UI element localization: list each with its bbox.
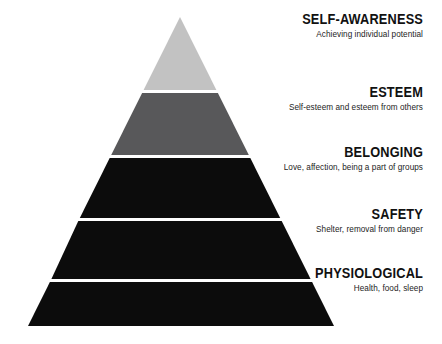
pyramid-tier-3-description: Love, affection, being a part of groups <box>93 164 423 172</box>
pyramid-tier-4-label: SAFETY Shelter, removal from danger <box>93 207 423 234</box>
pyramid-tier-5-label: PHYSIOLOGICAL Health, food, sleep <box>93 266 423 293</box>
pyramid-tier-1-title: SELF-AWARENESS <box>133 12 423 27</box>
pyramid-tier-2-title: ESTEEM <box>133 85 423 100</box>
pyramid-tier-2-label: ESTEEM Self-esteem and esteem from other… <box>93 85 423 112</box>
pyramid-diagram: SELF-AWARENESS Achieving individual pote… <box>0 0 442 344</box>
pyramid-tier-2-description: Self-esteem and esteem from others <box>93 104 423 112</box>
pyramid-tier-4-description: Shelter, removal from danger <box>93 226 423 234</box>
pyramid-tier-5-title: PHYSIOLOGICAL <box>133 266 423 281</box>
pyramid-tier-4-title: SAFETY <box>133 207 423 222</box>
pyramid-tier-5-description: Health, food, sleep <box>93 285 423 293</box>
pyramid-tier-3-label: BELONGING Love, affection, being a part … <box>93 145 423 172</box>
pyramid-tier-3-title: BELONGING <box>133 145 423 160</box>
pyramid-labels: SELF-AWARENESS Achieving individual pote… <box>0 0 442 344</box>
pyramid-tier-1-label: SELF-AWARENESS Achieving individual pote… <box>93 12 423 39</box>
pyramid-tier-1-description: Achieving individual potential <box>93 31 423 39</box>
